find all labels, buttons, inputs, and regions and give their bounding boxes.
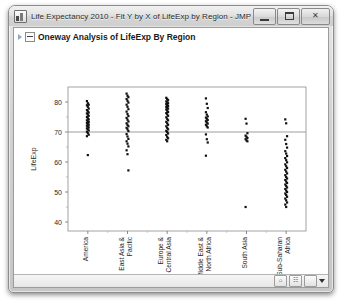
data-point	[126, 153, 128, 155]
data-point	[286, 161, 288, 163]
data-point	[246, 132, 248, 134]
data-point	[127, 108, 129, 110]
y-tick-label-60: 60	[54, 159, 62, 166]
data-point	[284, 204, 286, 206]
data-point	[245, 206, 247, 208]
copy-icon[interactable]: ☷	[289, 275, 302, 287]
data-point	[166, 140, 168, 142]
data-point	[127, 130, 129, 132]
x-category-label-0: America	[82, 237, 89, 262]
y-tick-label-70: 70	[54, 129, 62, 136]
minus-box-icon[interactable]	[25, 32, 35, 42]
data-point	[285, 143, 287, 145]
minimize-button[interactable]	[253, 8, 276, 25]
dropdown-arrow-icon[interactable]	[319, 279, 325, 283]
data-point	[284, 157, 286, 159]
data-point	[285, 199, 287, 201]
x-category-label-4: South Asia	[241, 237, 248, 269]
data-point	[126, 143, 128, 145]
data-point	[246, 140, 248, 142]
data-point	[205, 97, 207, 99]
data-point	[206, 103, 208, 105]
jmp-report-window: Life Expectancy 2010 - Fit Y by X of Lif…	[8, 5, 334, 293]
data-point	[207, 126, 209, 128]
data-point	[286, 135, 288, 137]
chart-svg: 4050607080LifeExpAmericaEast Asia &Pacif…	[14, 42, 328, 274]
data-point	[86, 135, 88, 137]
data-point	[87, 154, 89, 156]
window-controls: ✕	[253, 8, 331, 25]
close-button[interactable]: ✕	[301, 8, 330, 25]
window-title: Life Expectancy 2010 - Fit Y by X of Lif…	[31, 12, 253, 21]
window-titlebar[interactable]: Life Expectancy 2010 - Fit Y by X of Lif…	[9, 6, 333, 26]
window-client-area: Oneway Analysis of LifeExp By Region 405…	[13, 27, 329, 288]
data-point	[127, 138, 129, 140]
y-tick-label-50: 50	[54, 189, 62, 196]
data-point	[127, 102, 129, 104]
data-point	[245, 118, 247, 120]
data-point	[286, 201, 288, 203]
data-point	[126, 111, 128, 113]
oneway-scatter-chart: 4050607080LifeExpAmericaEast Asia &Pacif…	[14, 42, 328, 274]
data-point	[284, 139, 286, 141]
data-point	[126, 140, 128, 142]
data-point	[126, 93, 128, 95]
data-point	[127, 169, 129, 171]
data-point	[285, 122, 287, 124]
status-bar: ⌂ ☷	[14, 274, 328, 287]
oneway-report-panel: Oneway Analysis of LifeExp By Region 405…	[14, 28, 328, 274]
x-category-label-5: Sub-Saharan	[276, 237, 283, 274]
outline-title: Oneway Analysis of LifeExp By Region	[38, 32, 195, 42]
data-point	[285, 153, 287, 155]
data-point	[126, 133, 128, 135]
x-category-label-3: Middle East &	[197, 236, 204, 274]
x-category-label-3: North Africa	[205, 237, 212, 272]
data-point	[205, 133, 207, 135]
x-category-label-2: Central Asia	[165, 237, 172, 273]
desktop-backdrop: Life Expectancy 2010 - Fit Y by X of Lif…	[0, 0, 346, 304]
jmp-app-icon	[14, 10, 27, 23]
data-point	[207, 141, 209, 143]
data-point	[245, 123, 247, 125]
data-point	[126, 104, 128, 106]
triangle-right-icon[interactable]	[18, 34, 22, 40]
data-point	[126, 106, 128, 108]
data-point	[285, 206, 287, 208]
x-category-label-5: Africa	[284, 237, 291, 254]
y-axis-label: LifeExp	[30, 147, 38, 170]
outline-header[interactable]: Oneway Analysis of LifeExp By Region	[18, 32, 195, 42]
data-point	[285, 159, 287, 161]
data-point	[286, 147, 288, 149]
x-category-label-1: East Asia &	[118, 236, 125, 270]
data-point	[126, 113, 128, 115]
x-category-label-1: Pacific	[126, 236, 133, 256]
home-icon[interactable]: ⌂	[274, 275, 287, 287]
x-category-label-2: Europe &	[157, 236, 165, 264]
window-icon[interactable]	[304, 275, 317, 287]
data-point	[284, 150, 286, 152]
data-point	[284, 118, 286, 120]
y-tick-label-80: 80	[54, 99, 62, 106]
data-point	[205, 111, 207, 113]
plot-frame	[68, 87, 306, 231]
data-point	[205, 155, 207, 157]
data-point	[207, 107, 209, 109]
maximize-button[interactable]	[277, 8, 300, 25]
data-point	[286, 155, 288, 157]
data-point	[127, 145, 129, 147]
y-tick-label-40: 40	[54, 219, 62, 226]
data-point	[126, 149, 128, 151]
data-point	[126, 135, 128, 137]
data-point	[206, 138, 208, 140]
close-icon: ✕	[302, 9, 329, 24]
data-point	[86, 100, 88, 102]
